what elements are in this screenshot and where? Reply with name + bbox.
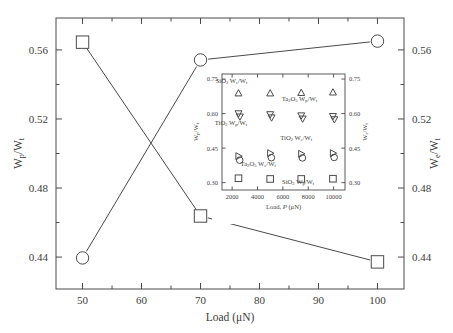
inset-annotation-sio2-wp-wt: SiO2 Wp/Wt [282, 178, 315, 186]
y-tick-label-right: 0.44 [412, 251, 432, 263]
inset-y-axis-label-right: We/Wt [361, 122, 369, 140]
series-line-segment [86, 66, 196, 251]
inset-y-axis-label-left: Wp/Wt [192, 122, 200, 141]
chart-canvas: 5060708090100Load (μN)0.440.440.480.480.… [0, 0, 453, 333]
inset-x-axis-label: Load, P (μN) [266, 203, 301, 211]
data-point-square [371, 256, 383, 268]
data-point-circle [76, 252, 88, 264]
inset-background [212, 66, 393, 224]
y-tick-label-right: 0.56 [412, 44, 432, 56]
series-line-segment [87, 48, 196, 209]
y-tick-label-right: 0.48 [412, 182, 432, 194]
main-y-axis-label-left: Wp/Wt [12, 137, 26, 169]
data-point-square [76, 36, 88, 48]
y-tick-label-right: 0.52 [412, 113, 431, 125]
inset-y-tick-label-left: 0.30 [207, 179, 218, 186]
x-tick-label: 90 [313, 294, 325, 306]
inset-x-tick-label: 4000 [251, 193, 264, 200]
inset-annotation-tio2-wp-wt: TiO2 Wp/Wt [215, 119, 248, 127]
inset-y-tick-label-left: 0.45 [207, 145, 218, 152]
inset-x-tick-label: 2000 [226, 193, 239, 200]
y-tick-label-left: 0.44 [29, 251, 49, 263]
inset-x-tick-label: 10000 [326, 193, 342, 200]
inset-plot: 200040006000800010000Load, P (μN)0.300.3… [192, 66, 393, 224]
y-tick-label-left: 0.52 [29, 113, 48, 125]
inset-y-tick-label-right: 0.75 [349, 75, 360, 82]
series-line-segment [208, 42, 370, 59]
inset-annotation-tio2-we-wt: TiO2 We/Wt [280, 134, 313, 142]
inset-y-tick-label-right: 0.45 [349, 145, 360, 152]
x-tick-label: 70 [195, 294, 207, 306]
series-line-segment [208, 218, 370, 260]
figure-container: 5060708090100Load (μN)0.440.440.480.480.… [0, 0, 453, 333]
inset-y-tick-label-right: 0.30 [349, 179, 360, 186]
y-tick-label-left: 0.56 [29, 44, 49, 56]
y-tick-label-left: 0.48 [29, 182, 49, 194]
data-point-circle [371, 35, 383, 47]
inset-annotation-sio2-we-wt: SiO2 We/Wt [216, 77, 248, 85]
main-y-axis-label-right: We/Wt [428, 137, 442, 169]
inset-y-tick-label-right: 0.60 [349, 110, 360, 117]
x-tick-label: 50 [77, 294, 89, 306]
inset-x-tick-label: 6000 [276, 193, 289, 200]
data-point-square [194, 210, 206, 222]
main-x-axis-label: Load (μN) [206, 311, 255, 324]
x-tick-label: 100 [369, 294, 386, 306]
x-tick-label: 80 [254, 294, 266, 306]
inset-annotation-ta2o5-wp-wt: Ta2O5 Wp/Wt [282, 95, 318, 103]
inset-annotation-ta2o5-we-wt: Ta2O5 We/Wt [241, 160, 277, 168]
inset-x-tick-label: 8000 [302, 193, 315, 200]
data-point-circle [194, 54, 206, 66]
inset-y-tick-label-left: 0.60 [207, 110, 218, 117]
x-tick-label: 60 [136, 294, 148, 306]
